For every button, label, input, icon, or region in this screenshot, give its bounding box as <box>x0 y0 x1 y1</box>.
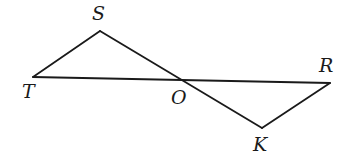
label-K: K <box>252 133 269 155</box>
geometry-diagram: T S O R K <box>0 0 346 163</box>
diagram-svg: T S O R K <box>0 0 346 163</box>
segment-TR <box>33 77 330 83</box>
label-S: S <box>92 2 105 24</box>
label-R: R <box>318 54 333 76</box>
label-O: O <box>171 86 187 108</box>
segments-group <box>33 31 330 128</box>
segment-TS <box>33 31 100 77</box>
segment-RK <box>262 83 330 128</box>
label-T: T <box>22 80 36 102</box>
